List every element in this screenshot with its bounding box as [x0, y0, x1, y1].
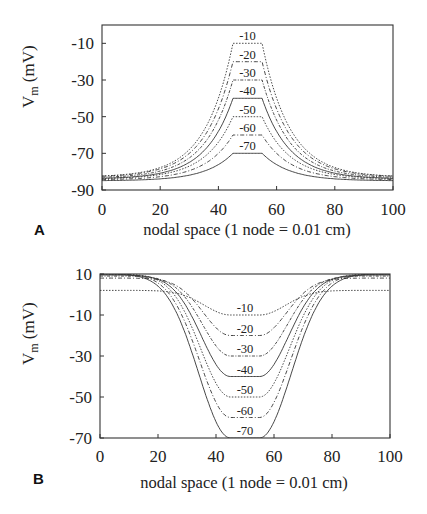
x-tick-label: 100 — [380, 200, 406, 219]
y-tick-label: -10 — [69, 306, 92, 325]
panel-letter-a: A — [34, 221, 45, 238]
series-label: -10 — [239, 29, 256, 43]
series-label: -20 — [237, 322, 254, 336]
chart-a: -10-20-30-40-50-60-70 020406080100-10-30… — [0, 0, 427, 255]
y-axis-label-b: Vm (mV) — [19, 302, 41, 365]
x-tick-label: 80 — [326, 200, 343, 219]
series-label: -70 — [239, 139, 256, 153]
series-label: -40 — [239, 84, 256, 98]
y-axis-label-a: Vm (mV) — [19, 45, 41, 108]
series-label: -40 — [237, 363, 254, 377]
series-label: -50 — [239, 103, 256, 117]
series-label: -70 — [237, 424, 254, 438]
y-tick-label: -30 — [71, 71, 94, 90]
x-tick-label: 0 — [98, 200, 107, 219]
series-label: -60 — [239, 121, 256, 135]
y-tick-label: -70 — [71, 144, 94, 163]
series-label: -50 — [237, 383, 254, 397]
y-tick-label: 10 — [75, 265, 92, 284]
curves-b: -10-20-30-40-50-60-70 — [100, 274, 390, 438]
curves-a: -10-20-30-40-50-60-70 — [102, 29, 393, 180]
panel-letter-b: B — [33, 470, 44, 487]
series-label: -20 — [239, 48, 256, 62]
y-tick-label: -50 — [71, 108, 94, 127]
y-tick-label: -70 — [69, 429, 92, 448]
y-tick-label: -10 — [71, 34, 94, 53]
panel-b: -10-20-30-40-50-60-70 02040608010010-10-… — [0, 255, 427, 514]
panel-a: -10-20-30-40-50-60-70 020406080100-10-30… — [0, 0, 427, 255]
x-tick-label: 20 — [152, 200, 169, 219]
x-tick-label: 80 — [324, 447, 341, 466]
series-line-minus50 — [100, 274, 390, 397]
x-tick-label: 0 — [96, 447, 105, 466]
x-tick-label: 100 — [377, 447, 403, 466]
x-tick-label: 60 — [268, 200, 285, 219]
x-axis-label-a: nodal space (1 node = 0.01 cm) — [143, 220, 351, 239]
y-tick-label: -50 — [69, 388, 92, 407]
series-label: -60 — [237, 404, 254, 418]
series-label: -30 — [237, 342, 254, 356]
x-axis-label-b: nodal space (1 node = 0.01 cm) — [140, 473, 348, 492]
chart-b: -10-20-30-40-50-60-70 02040608010010-10-… — [0, 255, 427, 514]
x-tick-label: 60 — [266, 447, 283, 466]
y-tick-label: -30 — [69, 347, 92, 366]
y-tick-label: -90 — [71, 181, 94, 200]
series-label: -10 — [237, 301, 254, 315]
series-label: -30 — [239, 66, 256, 80]
x-tick-label: 40 — [210, 200, 227, 219]
x-tick-label: 20 — [150, 447, 167, 466]
x-tick-label: 40 — [208, 447, 225, 466]
